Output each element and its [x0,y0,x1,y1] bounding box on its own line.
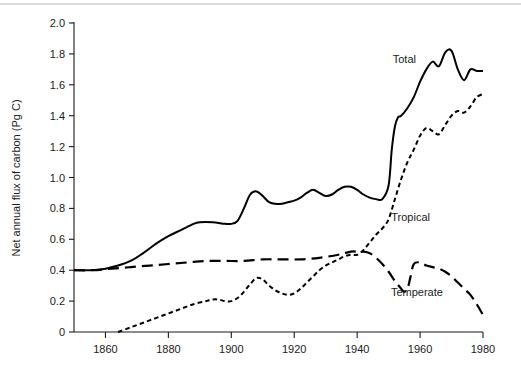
series-label-tropical: Tropical [391,211,430,223]
y-axis-title: Net annual flux of carbon (Pg C) [10,99,22,256]
series-label-temperate: Temperate [391,286,443,298]
chart-figure: 00.20.40.60.81.01.21.41.61.82.0 18601880… [0,0,521,377]
y-tick-label: 2.0 [50,17,65,29]
y-tick-label: 0.4 [50,264,65,276]
y-tick-label: 1.0 [50,172,65,184]
y-tick-label: 0.2 [50,295,65,307]
y-tick-label: 0.8 [50,202,65,214]
x-tick-label: 1980 [471,343,495,355]
y-tick-label: 1.2 [50,141,65,153]
x-tick-label: 1960 [408,343,432,355]
chart-canvas: 00.20.40.60.81.01.21.41.61.82.0 18601880… [0,0,521,377]
y-tick-label: 1.8 [50,48,65,60]
x-tick-label: 1940 [345,343,369,355]
y-tick-label: 0 [59,326,65,338]
series-label-total: Total [393,53,416,65]
y-tick-label: 1.6 [50,79,65,91]
x-tick-label: 1920 [282,343,306,355]
x-tick-label: 1880 [156,343,180,355]
x-tick-label: 1860 [93,343,117,355]
y-tick-label: 1.4 [50,110,65,122]
x-tick-label: 1900 [219,343,243,355]
y-tick-label: 0.6 [50,233,65,245]
